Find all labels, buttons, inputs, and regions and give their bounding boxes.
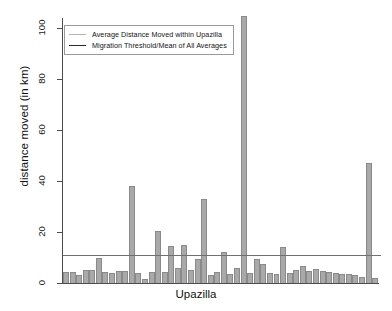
legend-label: Average Distance Moved within Upazilla [92,30,222,39]
x-axis-line [62,283,379,284]
threshold-line [63,255,381,256]
bar [339,274,345,283]
bar [129,186,135,283]
bar [372,278,378,283]
y-tick-label: 0 [36,272,47,294]
y-tick-mark [57,79,62,80]
bar [352,275,358,283]
bar [326,272,332,283]
bar [359,277,365,283]
legend-item: Migration Threshold/Mean of All Averages [69,40,227,51]
bar [247,273,253,283]
bar [188,270,194,283]
legend-item: Average Distance Moved within Upazilla [69,29,227,40]
bar [366,163,372,283]
bar [195,259,201,283]
legend-swatch-threshold-icon [69,45,86,47]
bar [221,252,227,283]
bar [76,275,82,283]
y-axis-title: distance moved (in km) [18,26,30,226]
bar [313,269,319,283]
bar [102,272,108,283]
bar [109,273,115,283]
bar [274,274,280,283]
bar [208,275,214,283]
bar [149,272,155,283]
bar [162,272,168,283]
bar [280,247,286,283]
legend-swatch-average-icon [69,34,86,35]
bar [214,272,220,283]
bar [234,268,240,283]
bar [241,16,247,283]
bar [96,258,102,283]
bar [201,199,207,283]
y-tick-mark [57,130,62,131]
y-tick-label: 100 [36,17,47,39]
bar [260,264,266,283]
bar [89,270,95,283]
bar [254,259,260,283]
y-tick-mark [57,28,62,29]
bar [70,272,76,283]
bar [175,268,181,283]
y-tick-mark [57,232,62,233]
bar [142,279,148,283]
y-tick-label: 40 [36,170,47,192]
bar [135,273,141,283]
bar [63,272,69,283]
bar [267,273,273,283]
bar [168,246,174,283]
y-tick-label: 80 [36,68,47,90]
bar [122,271,128,283]
bar [293,270,299,283]
bar [83,270,89,283]
y-tick-label: 60 [36,119,47,141]
bar [181,245,187,283]
legend-label: Migration Threshold/Mean of All Averages [92,41,227,50]
bar-chart: distance moved (in km) Upazilla 02040608… [0,0,392,311]
x-axis-title: Upazilla [0,288,392,300]
chart-legend: Average Distance Moved within Upazilla M… [64,25,234,55]
bar [155,231,161,283]
bar [227,274,233,283]
y-tick-mark [57,283,62,284]
bar [333,273,339,283]
bar [116,271,122,283]
bar [300,266,306,283]
bar [346,274,352,283]
bar [306,271,312,283]
bar [320,271,326,283]
y-tick-label: 20 [36,221,47,243]
bar [287,273,293,283]
y-tick-mark [57,181,62,182]
